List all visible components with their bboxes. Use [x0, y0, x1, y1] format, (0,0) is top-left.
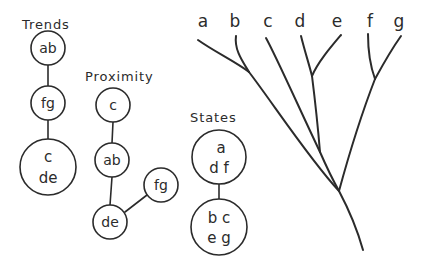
tree-leaf-label-e: e: [332, 11, 342, 31]
proximity-node-fg-label: fg: [154, 177, 168, 193]
tree-leaf-label-a: a: [198, 11, 208, 31]
phylogenetic-figure: a b c d e f g ab fg c de Trends: [0, 0, 422, 269]
tree-branch-d: [301, 36, 312, 76]
proximity-edge-de-fg: [125, 195, 147, 212]
trends-node-fg-label: fg: [41, 95, 55, 111]
tree-leaf-label-g: g: [394, 11, 405, 31]
proximity-edge-ab-de: [110, 177, 112, 205]
trends-node-cde-label-line1: c: [44, 148, 52, 166]
group-label-trends: Trends: [21, 17, 70, 32]
trends-node-cde-label-line2: de: [39, 169, 58, 187]
tree-branch-fg-stem: [339, 79, 375, 191]
tree-leaf-label-c: c: [263, 11, 272, 31]
states-node-bceg-label-line1: b c: [208, 209, 231, 227]
states-node-adf-label-line1: a: [216, 139, 225, 157]
tree-branch-e: [312, 35, 341, 76]
group-states: a d f b c e g States: [190, 110, 247, 256]
tree-branch-ab-stem: [249, 72, 339, 191]
group-label-states: States: [190, 110, 237, 125]
tree-leaf-label-d: d: [295, 11, 306, 31]
tree-branch-g: [375, 36, 401, 79]
tree-branch-a: [198, 40, 249, 72]
proximity-edge-c-ab: [112, 122, 113, 143]
states-node-adf-label-line2: d f: [209, 159, 229, 177]
group-proximity: c ab de fg Proximity: [85, 69, 178, 240]
tree-branch-root: [339, 191, 363, 250]
tree-leaf-label-f: f: [367, 11, 374, 31]
tree-branch-c: [266, 38, 320, 152]
trends-node-ab-label: ab: [39, 40, 57, 56]
tree-leaf-label-b: b: [230, 11, 241, 31]
group-label-proximity: Proximity: [85, 69, 154, 84]
tree-branch-f: [368, 34, 375, 79]
tree-leaf-labels: a b c d e f g: [198, 11, 405, 31]
proximity-node-c-label: c: [109, 97, 117, 113]
states-node-bceg-label-line2: e g: [207, 229, 231, 247]
tree-branch-de-stem: [312, 76, 320, 152]
figure-canvas: a b c d e f g ab fg c de Trends: [0, 0, 422, 269]
proximity-node-ab-label: ab: [103, 152, 121, 168]
proximity-node-de-label: de: [101, 214, 119, 230]
group-trends: ab fg c de Trends: [20, 17, 76, 196]
